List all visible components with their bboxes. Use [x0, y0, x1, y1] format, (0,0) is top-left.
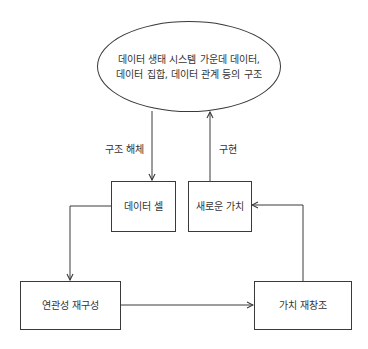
edge-label-implement: 구현 — [219, 141, 237, 156]
new-value-label: 새로운 가치 — [196, 199, 244, 214]
node-value-recreate: 가치 재창조 — [254, 281, 352, 330]
ecosystem-text-line1: 데이터 생태 시스템 가운데 데이터, — [118, 52, 260, 67]
node-new-value: 새로운 가치 — [188, 181, 252, 232]
node-data-cell: 데이터 셀 — [111, 181, 176, 232]
reconstruct-label: 연관성 재구성 — [42, 298, 99, 313]
edge-cell-to-reconstruct — [70, 206, 111, 280]
edge-recreate-to-newvalue — [252, 205, 303, 281]
node-relation-reconstruct: 연관성 재구성 — [20, 281, 121, 330]
data-cell-label: 데이터 셀 — [124, 199, 163, 214]
ecosystem-text-line2: 데이터 집합, 데이터 관계 등의 구조 — [116, 67, 261, 82]
value-recreate-label: 가치 재창조 — [279, 298, 327, 313]
edge-label-deconstruct: 구조 해체 — [105, 141, 144, 156]
node-data-ecosystem-structure: 데이터 생태 시스템 가운데 데이터, 데이터 집합, 데이터 관계 등의 구조 — [97, 21, 281, 112]
